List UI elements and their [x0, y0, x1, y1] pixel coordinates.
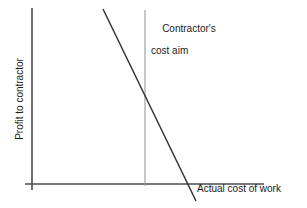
aim-annotation-line-1: Contractor's [162, 23, 216, 34]
x-axis-label: Actual cost of work [197, 183, 281, 194]
profit-vs-cost-chart: Profit to contractor Contractor's cost a… [0, 0, 307, 208]
y-axis-label-container: Profit to contractor [12, 24, 26, 174]
contractors-cost-aim-annotation: Contractor's cost aim [151, 12, 216, 78]
y-axis-label: Profit to contractor [14, 58, 25, 140]
aim-annotation-line-2: cost aim [151, 45, 216, 56]
